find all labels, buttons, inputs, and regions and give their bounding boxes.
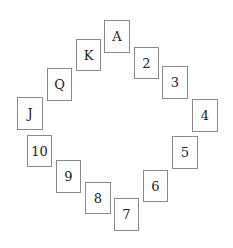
card-label: A: [112, 29, 121, 44]
card-3: 3: [162, 66, 188, 99]
card-8: 8: [85, 182, 111, 214]
card-2: 2: [134, 47, 159, 79]
card-5: 5: [172, 136, 198, 169]
card-label: 9: [64, 169, 72, 184]
card-j: J: [17, 97, 43, 130]
card-label: 10: [31, 144, 48, 159]
card-k: K: [76, 39, 101, 71]
card-q: Q: [47, 68, 72, 101]
card-label: 3: [171, 75, 179, 90]
card-label: 7: [122, 207, 130, 222]
card-label: 2: [142, 56, 150, 71]
card-label: 5: [181, 145, 189, 160]
card-a: A: [104, 20, 130, 53]
card-4: 4: [192, 99, 218, 132]
card-label: J: [27, 106, 32, 121]
card-rank-diagram: A2345678910JQK: [0, 0, 233, 248]
card-label: 4: [201, 108, 209, 123]
card-10: 10: [27, 135, 52, 167]
card-6: 6: [143, 170, 168, 202]
card-label: 6: [151, 179, 159, 194]
card-label: K: [84, 48, 94, 63]
card-7: 7: [114, 198, 139, 231]
card-label: Q: [54, 77, 65, 92]
card-9: 9: [56, 160, 81, 193]
card-label: 8: [94, 191, 102, 206]
